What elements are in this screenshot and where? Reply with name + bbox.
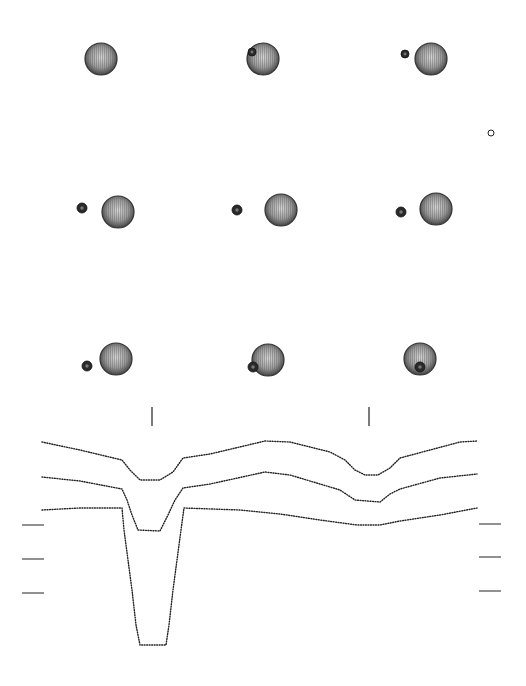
- small-circle-marker: [488, 130, 494, 136]
- configuration-panel: [248, 344, 284, 376]
- configuration-panel: [77, 196, 134, 228]
- configuration-panel: [404, 343, 436, 375]
- companion-star-highlight: [399, 210, 403, 214]
- companion-star-highlight: [85, 364, 89, 368]
- companion-star-highlight: [251, 365, 255, 369]
- companion-star-highlight: [418, 365, 422, 369]
- curve-3: [42, 508, 477, 645]
- primary-star-texture: [101, 344, 131, 374]
- configuration-panel: [232, 194, 297, 226]
- eclipsing-binary-figure: [0, 0, 526, 686]
- configuration-panel: [85, 43, 117, 75]
- primary-star-texture: [86, 44, 116, 74]
- primary-star-texture: [266, 195, 296, 225]
- primary-star-texture: [416, 44, 446, 74]
- configuration-panel: [396, 193, 452, 225]
- companion-star-highlight: [235, 208, 239, 212]
- curve-1: [42, 441, 477, 480]
- companion-star-highlight: [404, 53, 407, 56]
- companion-star-highlight: [80, 206, 84, 210]
- curve-2: [42, 472, 477, 531]
- primary-star-texture: [103, 197, 133, 227]
- scale-ticks: [22, 524, 501, 593]
- primary-star-texture: [253, 345, 283, 375]
- primary-star-texture: [421, 194, 451, 224]
- binary-configurations: [77, 43, 452, 376]
- misc-markers: [152, 130, 494, 426]
- configuration-panel: [82, 343, 132, 375]
- configuration-panel: [247, 43, 279, 75]
- configuration-panel: [401, 43, 447, 75]
- companion-star-highlight: [251, 51, 254, 54]
- light-curves: [42, 441, 477, 645]
